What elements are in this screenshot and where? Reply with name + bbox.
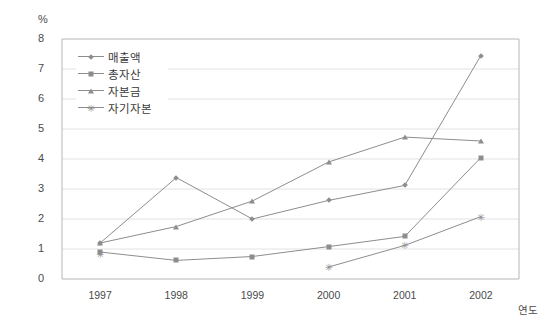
diamond-marker bbox=[88, 54, 94, 60]
y-axis-tick-label: 1 bbox=[20, 243, 44, 254]
legend-item[interactable]: 자본금 bbox=[78, 82, 166, 99]
y-axis-tick-label: 7 bbox=[20, 63, 44, 74]
star-marker: ✳ bbox=[477, 213, 485, 220]
triangle-marker bbox=[88, 88, 94, 93]
y-axis-tick-label: 0 bbox=[20, 273, 44, 284]
legend-swatch: ✳ bbox=[78, 101, 104, 115]
triangle-marker bbox=[97, 241, 103, 246]
square-marker bbox=[89, 71, 94, 76]
legend-label: 매출액 bbox=[104, 49, 141, 65]
triangle-marker bbox=[326, 160, 332, 165]
star-marker: ✳ bbox=[401, 242, 409, 249]
legend-label: 총자산 bbox=[104, 66, 141, 82]
square-marker bbox=[174, 258, 179, 263]
y-axis-tick-label: 3 bbox=[20, 183, 44, 194]
x-axis-title: 연도 bbox=[518, 302, 538, 317]
y-axis-tick-label: 2 bbox=[20, 213, 44, 224]
y-axis-tick-label: 8 bbox=[20, 33, 44, 44]
triangle-marker bbox=[249, 199, 255, 204]
legend-item[interactable]: 총자산 bbox=[78, 65, 166, 82]
square-marker bbox=[326, 244, 331, 249]
x-axis-tick-label: 1997 bbox=[70, 290, 130, 301]
legend: 매출액총자산자본금✳자기자본 bbox=[76, 45, 168, 120]
star-marker: ✳ bbox=[87, 104, 95, 111]
x-axis-tick-label: 1999 bbox=[222, 290, 282, 301]
x-axis-tick-label: 2002 bbox=[451, 290, 511, 301]
star-marker: ✳ bbox=[96, 250, 104, 257]
y-axis-tick-label: 6 bbox=[20, 93, 44, 104]
triangle-marker bbox=[478, 139, 484, 144]
legend-item[interactable]: 매출액 bbox=[78, 48, 166, 65]
line-chart: % 876543210 199719981999200020012002 ✳✳✳… bbox=[0, 0, 556, 323]
series-line bbox=[100, 158, 481, 261]
y-axis-tick-label: 5 bbox=[20, 123, 44, 134]
square-marker bbox=[402, 234, 407, 239]
legend-swatch bbox=[78, 84, 104, 98]
x-axis-tick-label: 1998 bbox=[146, 290, 206, 301]
square-marker bbox=[478, 155, 483, 160]
legend-item[interactable]: ✳자기자본 bbox=[78, 99, 166, 116]
x-axis-tick-label: 2001 bbox=[375, 290, 435, 301]
legend-label: 자기자본 bbox=[104, 100, 152, 116]
triangle-marker bbox=[173, 224, 179, 229]
legend-swatch bbox=[78, 50, 104, 64]
triangle-marker bbox=[402, 135, 408, 140]
y-axis-tick-label: 4 bbox=[20, 153, 44, 164]
legend-swatch bbox=[78, 67, 104, 81]
star-marker: ✳ bbox=[324, 264, 332, 271]
square-marker bbox=[250, 254, 255, 259]
x-axis-tick-label: 2000 bbox=[299, 290, 359, 301]
legend-label: 자본금 bbox=[104, 83, 141, 99]
